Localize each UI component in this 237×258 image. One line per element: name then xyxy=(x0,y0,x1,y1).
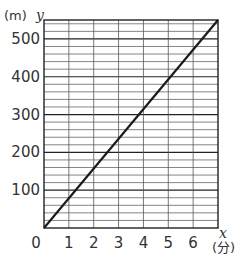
svg-text:500: 500 xyxy=(11,30,40,48)
x-variable-label: x xyxy=(219,225,227,241)
svg-text:5: 5 xyxy=(164,234,174,252)
svg-text:4: 4 xyxy=(139,234,149,252)
svg-text:1: 1 xyxy=(64,234,74,252)
svg-text:100: 100 xyxy=(11,181,40,199)
y-variable-label: y xyxy=(35,7,45,23)
svg-text:3: 3 xyxy=(114,234,124,252)
svg-text:0: 0 xyxy=(31,234,41,252)
data-line xyxy=(44,20,218,228)
y-axis-ticks: 100200300400500 xyxy=(11,30,40,199)
svg-text:6: 6 xyxy=(188,234,198,252)
svg-text:2: 2 xyxy=(89,234,99,252)
x-axis-ticks: 0123456 xyxy=(31,234,198,252)
y-unit-label: (m) xyxy=(4,8,27,23)
svg-text:200: 200 xyxy=(11,143,40,161)
x-unit-label: (分) xyxy=(212,240,235,255)
svg-text:400: 400 xyxy=(11,68,40,86)
svg-text:300: 300 xyxy=(11,106,40,124)
line-chart: 100200300400500 0123456 (m) y x (分) xyxy=(0,0,237,258)
